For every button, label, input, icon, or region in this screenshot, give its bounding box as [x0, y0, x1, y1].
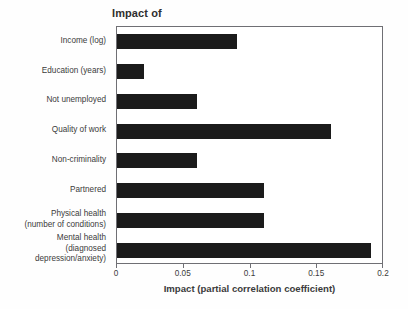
y-axis-label: Non-criminality: [0, 155, 106, 165]
bar: [117, 153, 197, 168]
bar: [117, 243, 371, 258]
y-axis-label: Partnered: [0, 184, 106, 194]
x-tick-mark: [116, 264, 117, 268]
x-tick-mark: [250, 264, 251, 268]
bar: [117, 34, 237, 49]
bar: [117, 124, 331, 139]
bar: [117, 64, 144, 79]
y-axis-category-labels: Income (log)Education (years)Not unemplo…: [0, 26, 112, 264]
bar: [117, 94, 197, 109]
x-axis-title: Impact (partial correlation coefficient): [116, 283, 383, 294]
x-tick-mark: [183, 264, 184, 268]
y-axis-label: Mental health (diagnosed depression/anxi…: [0, 234, 106, 265]
bar: [117, 213, 264, 228]
y-axis-label: Quality of work: [0, 125, 106, 135]
x-tick-mark: [316, 264, 317, 268]
x-tick-mark: [382, 264, 383, 268]
bar: [117, 183, 264, 198]
x-tick-label: 0.15: [308, 269, 324, 278]
bars-layer: [117, 27, 382, 263]
y-axis-label: Income (log): [0, 36, 106, 46]
plot-area: [116, 26, 383, 264]
x-tick-label: 0.05: [175, 269, 191, 278]
y-axis-label: Not unemployed: [0, 95, 106, 105]
y-axis-label: Education (years): [0, 65, 106, 75]
x-tick-label: 0.2: [377, 269, 388, 278]
y-axis-label: Physical health (number of conditions): [0, 209, 106, 230]
chart-figure: Impact of Income (log)Education (years)N…: [0, 0, 408, 309]
chart-title: Impact of: [112, 7, 162, 19]
x-tick-label: 0.1: [244, 269, 255, 278]
x-tick-label: 0: [114, 269, 119, 278]
